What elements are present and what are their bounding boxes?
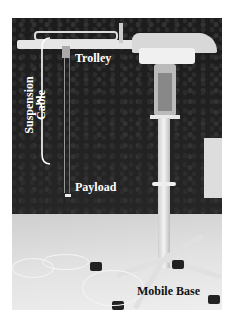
payload — [65, 194, 71, 197]
suspension-cable-label: Suspension Cable — [23, 65, 49, 145]
motor-housing — [158, 73, 172, 111]
suspension-cable — [69, 58, 70, 193]
mast-top — [119, 23, 123, 43]
cable-loop — [42, 254, 89, 270]
pole-collar-lower — [152, 182, 176, 186]
mobile-base-label: Mobile Base — [137, 284, 200, 299]
trolley — [62, 46, 70, 58]
payload-label: Payload — [75, 180, 116, 195]
suspension-cable-label-line2: Cable — [35, 65, 47, 145]
wheel — [172, 260, 184, 269]
wall-edge — [204, 138, 222, 198]
support-pole — [158, 118, 170, 268]
wheel — [90, 262, 102, 271]
cable-loop — [82, 270, 144, 306]
slewing-drum — [139, 48, 195, 64]
wheel — [208, 295, 220, 304]
trolley-label: Trolley — [75, 51, 111, 66]
suspension-cable — [64, 58, 65, 193]
